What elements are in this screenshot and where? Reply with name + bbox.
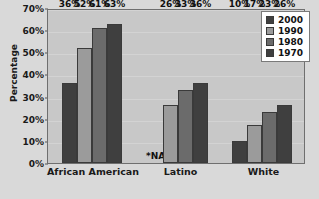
bar-slot: 36% <box>62 10 77 163</box>
bar-slot: 10% <box>232 10 247 163</box>
bar: 61% <box>92 28 107 163</box>
x-axis-category-label: Latino <box>139 166 222 177</box>
y-axis-tick-label: 50% <box>16 48 44 58</box>
bar-slot: 17% <box>247 10 262 163</box>
x-axis-category-label: White <box>222 166 305 177</box>
y-axis-tick-label: 40% <box>16 70 44 80</box>
bar: 23% <box>262 112 277 163</box>
legend-swatch-icon <box>266 38 274 46</box>
bar-slot: 26% <box>163 10 178 163</box>
bar: 36% <box>62 83 77 163</box>
legend-swatch-icon <box>266 27 274 35</box>
bar-slot: 33% <box>178 10 193 163</box>
legend-swatch-icon <box>266 49 274 57</box>
legend: 2000199019801970 <box>261 11 310 62</box>
legend-item[interactable]: 2000 <box>266 15 303 25</box>
y-axis-tick-label: 70% <box>16 4 44 14</box>
y-axis-tick-labels: 0%10%20%30%40%50%60%70% <box>16 9 44 164</box>
bar: 36% <box>193 83 208 163</box>
y-axis-tick-label: 20% <box>16 115 44 125</box>
bar-slot: *NA <box>148 10 163 163</box>
y-axis-tick-label: 10% <box>16 137 44 147</box>
bar: 17% <box>247 125 262 163</box>
bar-value-label: 63% <box>104 0 126 9</box>
bar-group: 36%52%61%63% <box>48 10 136 163</box>
legend-label: 1990 <box>278 26 303 36</box>
bar: 26% <box>277 105 292 163</box>
legend-item[interactable]: 1970 <box>266 48 303 58</box>
y-axis-tick-label: 30% <box>16 93 44 103</box>
bar: 52% <box>77 48 92 163</box>
bar-slot: 52% <box>77 10 92 163</box>
bar-value-label: 26% <box>274 0 296 9</box>
y-axis-tick-label: 0% <box>16 159 44 169</box>
bar-chart-figure: Percentage 0%10%20%30%40%50%60%70% 36%52… <box>0 0 319 199</box>
legend-label: 1970 <box>278 48 303 58</box>
bar-group: *NA26%33%36% <box>136 10 220 163</box>
legend-swatch-icon <box>266 16 274 24</box>
legend-item[interactable]: 1980 <box>266 37 303 47</box>
y-axis-tick-label: 60% <box>16 26 44 36</box>
bar: 26% <box>163 105 178 163</box>
bar-slot: 61% <box>92 10 107 163</box>
bar: 33% <box>178 90 193 163</box>
bar: 63% <box>107 24 122 164</box>
bar-slot: 36% <box>193 10 208 163</box>
x-axis-category-labels: African AmericanLatinoWhite <box>47 166 305 177</box>
legend-label: 2000 <box>278 15 303 25</box>
legend-item[interactable]: 1990 <box>266 26 303 36</box>
bar-value-label: 36% <box>190 0 212 9</box>
bar: 10% <box>232 141 247 163</box>
bar-slot: 63% <box>107 10 122 163</box>
x-axis-category-label: African American <box>47 166 139 177</box>
legend-label: 1980 <box>278 37 303 47</box>
